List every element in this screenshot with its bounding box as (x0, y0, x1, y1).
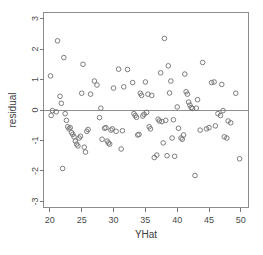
y-tick-label: 3 (30, 16, 40, 21)
data-point (169, 79, 174, 84)
residual-plot-figure: 20253035404550 -3-2-10123 YHat residual (0, 0, 263, 255)
data-point (119, 147, 124, 152)
data-point (171, 117, 176, 122)
x-tick-label: 30 (109, 215, 119, 225)
x-tick-label: 50 (236, 215, 246, 225)
scatter-points (48, 36, 242, 178)
data-point (125, 67, 130, 72)
data-point (60, 166, 65, 171)
data-point (158, 71, 163, 76)
data-point (59, 101, 64, 106)
y-tick-label: 2 (30, 47, 40, 52)
data-point (162, 36, 167, 41)
data-point (58, 94, 63, 99)
data-point (81, 62, 86, 67)
x-axis-ticks (50, 208, 241, 212)
y-tick-label: -2 (30, 167, 40, 175)
data-point (200, 60, 205, 65)
y-axis-title: residual (7, 92, 18, 127)
data-point (221, 108, 226, 113)
data-point (121, 85, 126, 90)
x-tick-label: 40 (172, 215, 182, 225)
data-point (49, 113, 54, 118)
x-axis-title: YHat (135, 229, 157, 240)
data-point (198, 128, 203, 133)
data-point (170, 136, 175, 141)
data-point (233, 91, 238, 96)
data-point (172, 154, 177, 159)
y-tick-label: 1 (30, 77, 40, 82)
data-point (130, 80, 135, 85)
data-point (179, 136, 184, 141)
data-point (114, 129, 119, 134)
data-point (176, 126, 181, 131)
data-point (107, 142, 112, 147)
data-point (109, 128, 114, 133)
data-point (64, 118, 69, 123)
data-point (166, 64, 171, 69)
data-point (95, 83, 100, 88)
data-point (165, 153, 170, 158)
data-point (143, 80, 148, 85)
data-point (237, 156, 242, 161)
y-axis-ticks (40, 19, 44, 202)
x-axis-tick-labels: 20253035404550 (45, 215, 246, 225)
data-point (79, 91, 84, 96)
scatter-plot-canvas: 20253035404550 -3-2-10123 YHat residual (0, 0, 263, 255)
data-point (193, 173, 198, 178)
data-point (175, 105, 180, 110)
data-point (161, 141, 166, 146)
data-point (62, 55, 67, 60)
data-point (213, 124, 218, 129)
y-tick-label: -1 (30, 136, 40, 144)
data-point (83, 150, 88, 155)
data-point (97, 115, 102, 120)
data-point (116, 67, 121, 72)
x-tick-label: 20 (45, 215, 55, 225)
data-point (181, 133, 186, 138)
data-point (63, 111, 68, 116)
data-point (183, 72, 188, 77)
y-axis-tick-labels: -3-2-10123 (30, 16, 40, 205)
x-tick-label: 25 (77, 215, 87, 225)
data-point (219, 82, 224, 87)
data-point (82, 145, 87, 150)
y-tick-label: 0 (30, 107, 40, 112)
x-tick-label: 45 (204, 215, 214, 225)
data-point (55, 39, 60, 44)
data-point (167, 91, 172, 96)
data-point (111, 86, 116, 91)
data-point (100, 137, 105, 142)
y-tick-label: -3 (30, 197, 40, 205)
data-point (48, 74, 53, 79)
data-point (88, 92, 93, 97)
data-point (195, 97, 200, 102)
x-tick-label: 35 (140, 215, 150, 225)
data-point (120, 128, 125, 133)
